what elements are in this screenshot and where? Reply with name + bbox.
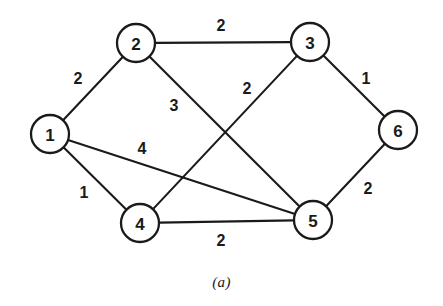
graph-edge-3-6	[323, 55, 384, 116]
edge-weight-4-5: 2	[217, 232, 226, 249]
edges-layer	[63, 42, 385, 223]
node-label-5: 5	[308, 212, 317, 231]
graph-canvas: 123456 223214122	[0, 0, 443, 306]
edge-weight-1-5: 4	[138, 140, 147, 157]
graph-node-2: 2	[117, 24, 155, 62]
graph-node-4: 4	[121, 204, 159, 242]
graph-node-5: 5	[294, 201, 332, 239]
node-label-4: 4	[135, 215, 145, 234]
node-label-6: 6	[393, 122, 402, 141]
edge-weight-2-3: 2	[217, 17, 226, 34]
graph-edge-1-2	[63, 57, 123, 120]
node-label-3: 3	[305, 34, 314, 53]
edge-weight-1-4: 1	[80, 184, 89, 201]
edge-weight-1-2: 2	[74, 70, 83, 87]
node-label-1: 1	[45, 126, 54, 145]
graph-node-3: 3	[291, 23, 329, 61]
edge-weight-2-5: 3	[170, 97, 179, 114]
graph-node-6: 6	[379, 111, 417, 149]
graph-edge-2-3	[155, 42, 291, 43]
edge-weight-3-4: 2	[243, 80, 252, 97]
graph-figure: 123456 223214122 (a)	[0, 0, 443, 306]
edge-weight-5-6: 2	[364, 180, 373, 197]
graph-edge-1-5	[68, 140, 295, 214]
graph-edge-5-6	[326, 144, 385, 206]
figure-caption: (a)	[0, 274, 443, 291]
graph-edge-3-4	[153, 56, 297, 209]
node-label-2: 2	[131, 35, 140, 54]
graph-edge-4-5	[159, 220, 294, 222]
graph-node-1: 1	[31, 115, 69, 153]
edge-weight-3-6: 1	[362, 70, 371, 87]
